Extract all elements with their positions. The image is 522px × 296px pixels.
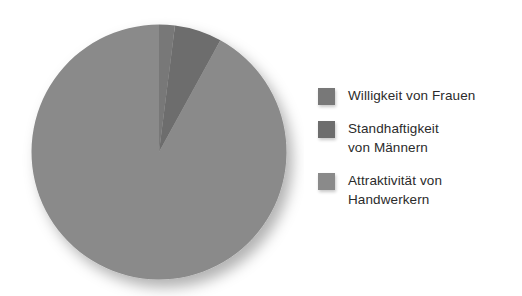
pie-chart-figure: Willigkeit von Frauen Standhaftigkeit vo… xyxy=(0,0,522,296)
legend-swatch-standhaftigkeit-icon xyxy=(318,121,335,138)
legend-label-willigkeit: Willigkeit von Frauen xyxy=(348,86,475,105)
legend-label-standhaftigkeit: Standhaftigkeit von Männern xyxy=(348,119,439,157)
pie-chart-plot-area xyxy=(22,12,304,296)
pie-chart-svg xyxy=(22,12,304,296)
pie-slice-attraktivitaet-von-handwerkern[interactable] xyxy=(31,24,286,279)
legend-item-willigkeit[interactable]: Willigkeit von Frauen xyxy=(318,86,516,105)
legend-swatch-willigkeit-icon xyxy=(318,88,335,105)
legend-swatch-attraktivitaet-icon xyxy=(318,173,335,190)
pie-slices-group xyxy=(31,24,286,279)
chart-legend: Willigkeit von Frauen Standhaftigkeit vo… xyxy=(318,86,516,223)
legend-item-attraktivitaet[interactable]: Attraktivität von Handwerkern xyxy=(318,171,516,209)
legend-item-standhaftigkeit[interactable]: Standhaftigkeit von Männern xyxy=(318,119,516,157)
legend-label-attraktivitaet: Attraktivität von Handwerkern xyxy=(348,171,442,209)
